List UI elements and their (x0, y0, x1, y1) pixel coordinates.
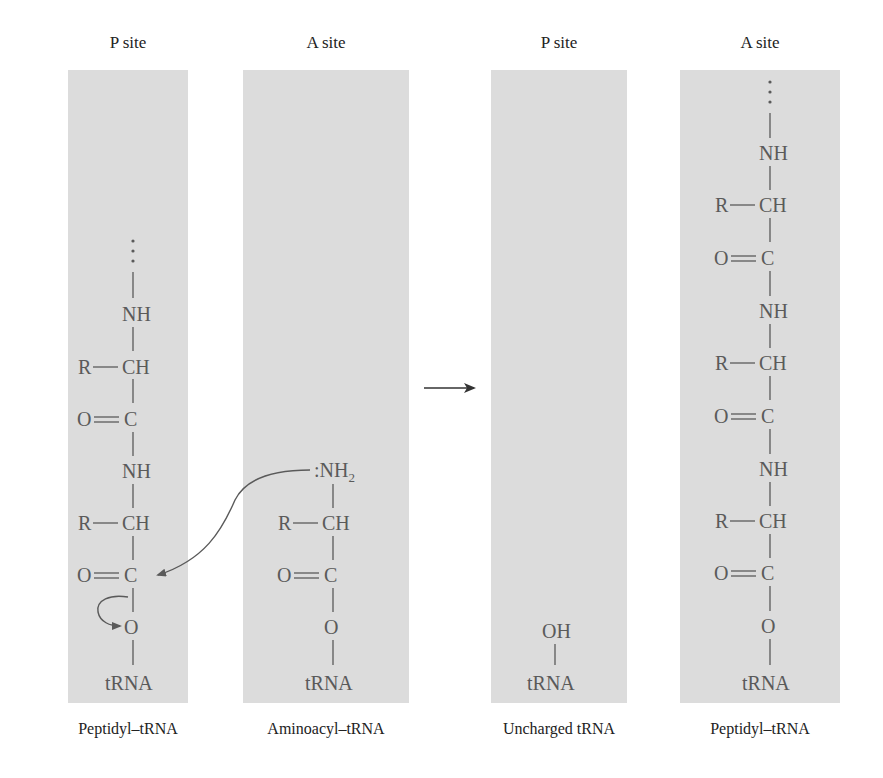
carbonyl-c-attacked: C (124, 564, 137, 586)
trna-label: tRNA (305, 672, 353, 694)
svg-text:NH: NH (759, 142, 788, 164)
svg-text:C: C (324, 564, 337, 586)
ch-group: CH (122, 512, 150, 534)
svg-text:O: O (77, 408, 91, 430)
oh-group: OH (542, 620, 571, 642)
svg-text:CH: CH (759, 352, 787, 374)
ch-group: CH (122, 356, 150, 378)
svg-text:R: R (715, 352, 729, 374)
svg-text:R: R (78, 356, 92, 378)
svg-text:NH: NH (759, 300, 788, 322)
svg-text:R: R (78, 512, 92, 534)
nh-group: NH (122, 460, 151, 482)
svg-text:O: O (714, 247, 728, 269)
aminoacyl-trna: :NH2 R CH O C O tRNA (277, 459, 355, 694)
svg-text:CH: CH (759, 194, 787, 216)
svg-text:CH: CH (759, 510, 787, 532)
peptidyl-trna-after: NH R CH O C NH R CH O C NH R CH O C O tR… (714, 80, 790, 694)
ch-group: CH (322, 512, 350, 534)
trna-label: tRNA (105, 672, 153, 694)
caption-peptidyl-trna-after: Peptidyl–tRNA (670, 720, 850, 738)
uncharged-trna: OH tRNA (527, 620, 575, 694)
svg-text:C: C (761, 247, 774, 269)
trna-label: tRNA (527, 672, 575, 694)
svg-text:O: O (277, 564, 291, 586)
svg-text:O: O (77, 564, 91, 586)
nh-group: NH (122, 303, 151, 325)
svg-text:O: O (324, 616, 338, 638)
trna-label: tRNA (742, 672, 790, 694)
svg-text:R: R (715, 510, 729, 532)
ester-oxygen: O (124, 616, 138, 638)
reaction-diagram: NH R CH O C NH R CH O C O tRNA :NH2 R CH (0, 0, 883, 778)
svg-text:C: C (761, 562, 774, 584)
caption-aminoacyl-trna: Aminoacyl–tRNA (226, 720, 426, 738)
caption-peptidyl-trna-before: Peptidyl–tRNA (38, 720, 218, 738)
svg-text:R: R (278, 512, 292, 534)
svg-text:O: O (714, 562, 728, 584)
svg-text:O: O (761, 615, 775, 637)
carbonyl-c: C (124, 408, 137, 430)
svg-text:R: R (715, 194, 729, 216)
svg-text:C: C (761, 405, 774, 427)
nh2-group: :NH2 (314, 459, 355, 485)
svg-text:NH: NH (759, 458, 788, 480)
svg-text:O: O (714, 405, 728, 427)
peptidyl-trna-before: NH R CH O C NH R CH O C O tRNA (77, 239, 153, 694)
caption-uncharged-trna: Uncharged tRNA (469, 720, 649, 738)
